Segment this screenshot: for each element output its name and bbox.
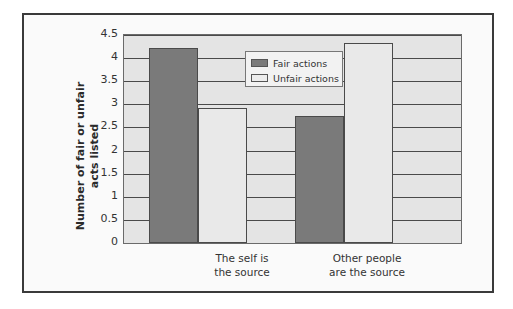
- y-tick-label: 4.5: [86, 27, 118, 40]
- legend: Fair actions Unfair actions: [245, 51, 343, 87]
- legend-item-unfair: Unfair actions: [251, 72, 339, 84]
- x-category-label-line: are the source: [297, 265, 437, 279]
- gridline: [124, 35, 461, 36]
- y-axis-label-line-2: acts listed: [88, 81, 102, 231]
- y-tick-label: 4: [86, 50, 118, 63]
- y-axis-label-line-1: Number of fair or unfair: [74, 81, 88, 231]
- x-category-label-line: Other people: [297, 251, 437, 265]
- legend-label-unfair: Unfair actions: [273, 73, 339, 84]
- x-category-label-others: Other people are the source: [297, 251, 437, 279]
- bar-unfair-self: [198, 108, 247, 243]
- x-category-label-line: the source: [172, 265, 312, 279]
- legend-swatch-fair: [251, 59, 268, 67]
- bar-fair-others: [295, 116, 344, 243]
- y-tick-label: 0: [86, 235, 118, 248]
- legend-item-fair: Fair actions: [251, 57, 327, 69]
- bar-unfair-others: [344, 43, 393, 243]
- x-category-label-self: The self is the source: [172, 251, 312, 279]
- y-axis-label: Number of fair or unfair acts listed: [74, 81, 102, 231]
- legend-swatch-unfair: [251, 74, 268, 82]
- x-category-label-line: The self is: [172, 251, 312, 265]
- bar-fair-self: [149, 48, 198, 243]
- legend-label-fair: Fair actions: [273, 58, 327, 69]
